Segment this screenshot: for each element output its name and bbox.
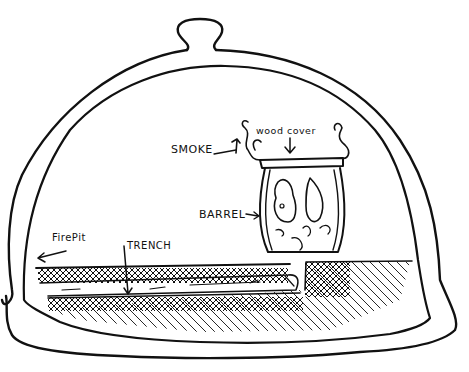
wood-cover xyxy=(260,138,343,168)
dome-handle xyxy=(178,19,223,50)
diagram-canvas xyxy=(0,0,469,372)
fire-pit-arrow xyxy=(38,251,66,262)
fire-pit-label: FirePit xyxy=(52,232,86,243)
barrel-label: BARREL xyxy=(199,208,245,221)
barrel-arrow xyxy=(246,212,259,219)
barrel xyxy=(260,168,344,252)
smoke-label: SMOKE xyxy=(171,143,213,156)
trench-label: TRENCH xyxy=(127,240,171,251)
ground xyxy=(36,261,412,332)
wood-cover-label: wood cover xyxy=(256,125,316,136)
